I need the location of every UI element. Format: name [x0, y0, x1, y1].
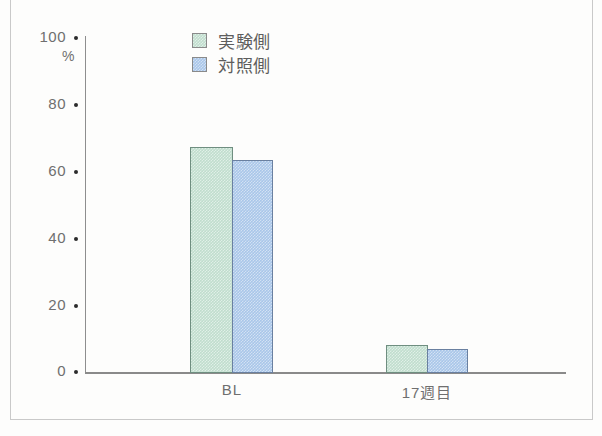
y-tick-label-80: 80 — [20, 95, 66, 112]
x-axis-label-week17: 17週目 — [367, 381, 487, 402]
y-tick-label-20: 20 — [20, 296, 66, 313]
chart-page: 100 80 60 40 20 0 % BL 17週目 — [0, 0, 602, 436]
legend-item-control: 対照側 — [192, 52, 271, 76]
y-tick-mark-80 — [74, 103, 78, 107]
legend-swatch-experimental-icon — [192, 33, 207, 48]
bar-chart: 100 80 60 40 20 0 % BL 17週目 — [0, 0, 602, 436]
y-tick-mark-100 — [74, 36, 78, 40]
y-tick-mark-40 — [74, 237, 78, 241]
legend-label-control: 対照側 — [218, 52, 271, 77]
bar-bl-experimental — [190, 147, 233, 373]
y-tick-label-0: 0 — [20, 362, 66, 379]
y-tick-mark-0 — [74, 370, 78, 374]
y-axis-unit-label: % — [62, 48, 74, 64]
bar-week17-experimental — [386, 345, 428, 373]
x-axis-label-bl: BL — [172, 381, 292, 398]
legend-swatch-control-icon — [192, 57, 207, 72]
legend-label-experimental: 実験側 — [218, 28, 271, 53]
y-axis-line — [85, 36, 86, 374]
y-tick-mark-60 — [74, 170, 78, 174]
y-tick-label-60: 60 — [20, 162, 66, 179]
chart-legend: 実験側 対照側 — [192, 28, 271, 76]
y-tick-label-40: 40 — [20, 229, 66, 246]
legend-item-experimental: 実験側 — [192, 28, 271, 52]
y-tick-mark-20 — [74, 304, 78, 308]
x-axis-baseline — [85, 372, 566, 374]
bar-week17-control — [427, 349, 468, 373]
y-tick-label-100: 100 — [20, 28, 66, 45]
bar-bl-control — [232, 160, 273, 373]
